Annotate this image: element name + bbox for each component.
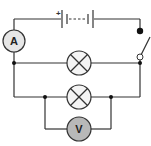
circuit-svg: + A V (0, 0, 151, 146)
junction-dot (138, 61, 142, 65)
voltmeter-label: V (75, 123, 83, 135)
battery (62, 10, 93, 28)
switch (137, 28, 150, 60)
battery-plus-label: + (56, 9, 61, 18)
switch-lever (141, 37, 150, 55)
junction-dot (12, 61, 16, 65)
ammeter-label: A (10, 35, 18, 47)
circuit-diagram: + A V (0, 0, 151, 146)
switch-contact-fixed (137, 28, 143, 34)
junction-dot (109, 95, 113, 99)
lamp-1 (67, 51, 91, 75)
switch-pivot (137, 54, 143, 60)
lamp-2 (67, 85, 91, 109)
junction-dot (43, 95, 47, 99)
